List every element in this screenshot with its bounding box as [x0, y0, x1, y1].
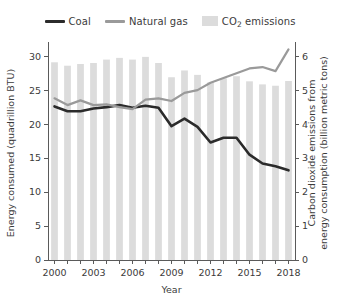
x-tick-label: 2018 — [276, 267, 300, 278]
bar-co2-2007 — [142, 57, 149, 260]
bar-co2-2013 — [220, 78, 227, 260]
bar-co2-2000 — [51, 62, 58, 260]
x-tick-label: 2003 — [81, 267, 105, 278]
bar-co2-2010 — [181, 70, 188, 260]
y-axis-right-title-line-2: energy consumption (billion metric tons) — [318, 56, 329, 250]
y-left-tick-label: 25 — [29, 85, 41, 96]
bar-co2-2017 — [272, 86, 279, 260]
bar-co2-2005 — [116, 58, 123, 260]
y-axis-left-title: Energy consumed (quadrillion BTU) — [5, 69, 16, 237]
y-left-tick-label: 30 — [29, 51, 41, 62]
y-left-tick-label: 5 — [35, 220, 41, 231]
bar-co2-2009 — [168, 77, 175, 260]
bar-co2-2016 — [259, 84, 266, 260]
y-left-tick-label: 10 — [29, 186, 41, 197]
bar-co2-2004 — [103, 60, 110, 260]
y-right-tick-label: 6 — [302, 51, 308, 62]
x-tick-label: 2006 — [120, 267, 144, 278]
y-left-tick-label: 0 — [35, 254, 41, 265]
bar-co2-2014 — [233, 76, 240, 260]
bar-co2-2001 — [64, 66, 71, 260]
y-left-tick-label: 20 — [29, 119, 41, 130]
y-left-tick-label: 15 — [29, 152, 41, 163]
x-tick-label: 2009 — [159, 267, 183, 278]
bar-co2-2006 — [129, 60, 136, 260]
bar-co2-2002 — [77, 64, 84, 260]
bar-co2-2011 — [194, 75, 201, 260]
bar-co2-2012 — [207, 82, 214, 260]
y-right-tick-label: 0 — [302, 254, 308, 265]
bar-co2-2008 — [155, 63, 162, 260]
x-axis-title: Year — [160, 284, 181, 295]
bar-co2-2015 — [246, 81, 253, 260]
x-tick-label: 2015 — [237, 267, 261, 278]
chart-plot-area: 0510152025300123456200020032006200920122… — [0, 0, 340, 305]
y-axis-right-title-line-1: Carbon dioxide emissions from — [306, 80, 317, 227]
bar-co2-2003 — [90, 63, 97, 260]
x-tick-label: 2000 — [42, 267, 66, 278]
chart-figure: Coal Natural gas CO2 emissions 051015202… — [0, 0, 340, 305]
x-tick-label: 2012 — [198, 267, 222, 278]
